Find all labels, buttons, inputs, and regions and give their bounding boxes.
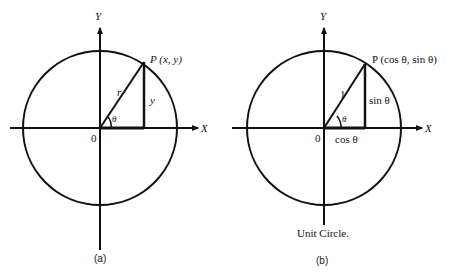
hypotenuse-label-b: 1	[340, 88, 346, 100]
angle-arc-b	[337, 116, 341, 128]
x-axis-label-a: X	[200, 122, 209, 134]
point-label-b: P (cos θ, sin θ)	[372, 53, 437, 66]
origin-label-a: 0	[91, 132, 97, 144]
angle-label-b: θ	[342, 114, 347, 124]
vertical-label-b: sin θ	[369, 94, 390, 106]
y-axis-label-a: Y	[95, 10, 103, 22]
hypotenuse-label-a: r	[117, 86, 122, 98]
angle-label-a: θ	[112, 114, 117, 124]
x-axis-label-b: X	[424, 122, 433, 134]
angle-arc-a	[108, 117, 111, 128]
radius-line-a	[100, 62, 144, 128]
vertical-label-a: y	[149, 94, 155, 106]
figure-b: Y X 0 P (cos θ, sin θ) 1 sin θ cos θ θ U…	[232, 10, 437, 266]
caption-a: (a)	[94, 253, 106, 264]
point-label-a: P (x, y)	[149, 53, 182, 66]
y-axis-label-b: Y	[320, 10, 328, 22]
caption-b: (b)	[316, 255, 328, 266]
diagram-canvas: Y X 0 P (x, y) r y θ (a) Y X 0 P (cos θ,…	[0, 0, 452, 279]
subtitle-b: Unit Circle.	[297, 227, 349, 239]
figure-a: Y X 0 P (x, y) r y θ (a)	[10, 10, 209, 264]
horizontal-label-b: cos θ	[335, 133, 358, 145]
origin-label-b: 0	[315, 132, 321, 144]
